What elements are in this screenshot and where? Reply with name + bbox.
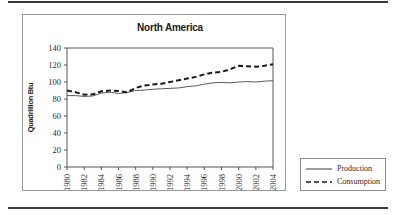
top-divider-rule — [8, 1, 388, 3]
x-axis-tick-label: 1982 — [79, 174, 89, 190]
chart-frame: North AmericaQuadrillion Btu020406080100… — [22, 14, 286, 191]
series-line-consumption — [67, 64, 273, 95]
figure-page: North AmericaQuadrillion Btu020406080100… — [0, 0, 396, 215]
x-axis-tick-label: 1984 — [96, 173, 106, 190]
legend-item-production: Production — [305, 162, 381, 175]
y-axis-tick-label: 100 — [48, 77, 61, 87]
series-line-production — [67, 81, 273, 97]
chart-title: North America — [137, 22, 204, 33]
x-axis-tick-label: 1996 — [199, 174, 209, 190]
x-axis-tick-label: 2000 — [234, 174, 244, 190]
x-axis-tick-label: 1992 — [165, 174, 175, 190]
x-axis-tick-label: 1986 — [114, 174, 124, 190]
solid-line-icon — [305, 165, 333, 173]
dashed-line-icon — [305, 178, 333, 186]
y-axis-tick-label: 20 — [53, 145, 62, 155]
line-chart: North AmericaQuadrillion Btu020406080100… — [23, 15, 285, 190]
x-axis-tick-label: 2002 — [251, 174, 261, 190]
x-axis-tick-label: 1994 — [182, 173, 192, 190]
legend-label-consumption: Consumption — [337, 177, 380, 186]
y-axis-tick-label: 60 — [53, 111, 62, 121]
chart-legend: Production Consumption — [300, 158, 386, 191]
x-axis-tick-label: 1980 — [62, 174, 72, 190]
x-axis-tick-label: 1990 — [148, 174, 158, 190]
y-axis-tick-label: 80 — [53, 94, 62, 104]
y-axis-tick-label: 120 — [48, 60, 61, 70]
y-axis-label: Quadrillion Btu — [26, 82, 35, 132]
legend-label-production: Production — [337, 164, 372, 173]
bottom-divider-rule — [8, 207, 388, 209]
y-axis-tick-label: 140 — [48, 43, 61, 53]
x-axis-tick-label: 1988 — [131, 174, 141, 190]
x-axis-tick-label: 2004 — [268, 173, 278, 190]
y-axis-tick-label: 40 — [53, 128, 62, 138]
x-axis-tick-label: 1998 — [217, 174, 227, 190]
y-axis-tick-label: 0 — [57, 162, 61, 172]
legend-item-consumption: Consumption — [305, 175, 381, 188]
